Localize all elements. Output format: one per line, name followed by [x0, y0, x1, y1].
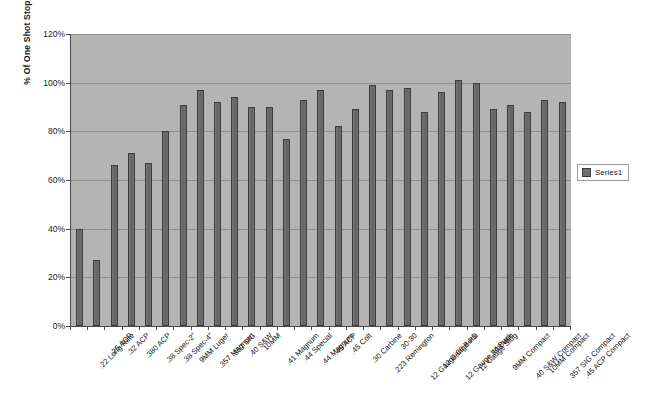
bar-cell — [467, 34, 484, 326]
y-axis-tick-mark — [66, 277, 70, 278]
x-axis-tick-mark — [501, 326, 502, 330]
bar — [507, 105, 514, 326]
x-axis-tick-mark — [363, 326, 364, 330]
bar — [335, 126, 342, 326]
x-axis-tick-mark — [449, 326, 450, 330]
bar-cell — [71, 34, 88, 326]
x-axis-tick-mark — [536, 326, 537, 330]
bar-cell — [123, 34, 140, 326]
x-axis-tick-mark — [484, 326, 485, 330]
x-axis-tick-mark — [225, 326, 226, 330]
bar — [93, 260, 100, 326]
bar-cell — [433, 34, 450, 326]
y-axis-tick-label: 40% — [0, 224, 65, 234]
bar-cell — [502, 34, 519, 326]
bar-cell — [554, 34, 571, 326]
bar-cell — [105, 34, 122, 326]
y-axis-tick-label: 20% — [0, 272, 65, 282]
chart-screenshot: % Of One Shot Stops 0%20%40%60%80%100%12… — [0, 0, 654, 417]
x-axis-tick-mark — [156, 326, 157, 330]
bar — [524, 112, 531, 326]
y-axis-tick-label: 0% — [0, 321, 65, 331]
bar — [352, 109, 359, 326]
bar — [231, 97, 238, 326]
bar — [214, 102, 221, 326]
y-axis-tick-mark — [66, 229, 70, 230]
x-axis-tick-mark — [260, 326, 261, 330]
bar — [111, 165, 118, 326]
x-axis-tick-mark — [398, 326, 399, 330]
y-axis-tick-label: 100% — [0, 78, 65, 88]
bar — [455, 80, 462, 326]
legend-label-series1: Series1 — [595, 168, 622, 177]
y-axis-title: % Of One Shot Stops — [22, 0, 32, 110]
x-axis-tick-mark — [380, 326, 381, 330]
plot-area — [70, 34, 571, 327]
bar — [197, 90, 204, 326]
bar-cell — [364, 34, 381, 326]
bar-cell — [381, 34, 398, 326]
x-axis-tick-mark — [139, 326, 140, 330]
bar-cell — [157, 34, 174, 326]
x-axis-tick-mark — [467, 326, 468, 330]
x-axis-tick-mark — [173, 326, 174, 330]
bar — [300, 100, 307, 326]
bar — [128, 153, 135, 326]
y-axis-tick-label: 80% — [0, 126, 65, 136]
bar-cell — [347, 34, 364, 326]
bar-cell — [278, 34, 295, 326]
bar — [369, 85, 376, 326]
x-axis-tick-mark — [570, 326, 571, 330]
x-axis-tick-mark — [70, 326, 71, 330]
bar — [248, 107, 255, 326]
x-axis-tick-mark — [277, 326, 278, 330]
bar — [145, 163, 152, 326]
bar-series — [71, 34, 571, 326]
x-axis-tick-mark — [104, 326, 105, 330]
y-axis-tick-mark — [66, 131, 70, 132]
bar — [180, 105, 187, 326]
bar-cell — [261, 34, 278, 326]
bar — [473, 83, 480, 326]
bar — [317, 90, 324, 326]
bar — [421, 112, 428, 326]
x-axis-tick-mark — [415, 326, 416, 330]
y-axis-tick-mark — [66, 180, 70, 181]
x-axis-tick-mark — [553, 326, 554, 330]
bar-cell — [330, 34, 347, 326]
x-axis-tick-mark — [242, 326, 243, 330]
x-axis-tick-mark — [87, 326, 88, 330]
x-axis-tick-mark — [518, 326, 519, 330]
bar — [490, 109, 497, 326]
x-axis-tick-mark — [191, 326, 192, 330]
bar — [541, 100, 548, 326]
bar-cell — [450, 34, 467, 326]
bar-cell — [88, 34, 105, 326]
bar — [266, 107, 273, 326]
x-axis-tick-mark — [208, 326, 209, 330]
x-axis-tick-labels: .22 Long Rifle.25 ACP.32 ACP.380 ACP.38 … — [70, 331, 570, 417]
bar-cell — [485, 34, 502, 326]
bar-cell — [519, 34, 536, 326]
bar-cell — [312, 34, 329, 326]
x-axis-tick-mark — [311, 326, 312, 330]
bar — [162, 131, 169, 326]
bar — [404, 88, 411, 326]
bar-cell — [226, 34, 243, 326]
bar-cell — [174, 34, 191, 326]
x-axis-tick-mark — [432, 326, 433, 330]
bar — [283, 139, 290, 326]
bar-cell — [536, 34, 553, 326]
bar-cell — [209, 34, 226, 326]
x-axis-tick-mark — [346, 326, 347, 330]
x-axis-tick-mark — [329, 326, 330, 330]
legend-swatch-series1 — [582, 168, 591, 177]
y-axis-tick-label: 60% — [0, 175, 65, 185]
bar — [438, 92, 445, 326]
y-axis-tick-label: 120% — [0, 29, 65, 39]
bar-cell — [398, 34, 415, 326]
bar — [559, 102, 566, 326]
chart-legend: Series1 — [577, 164, 629, 181]
bar-cell — [243, 34, 260, 326]
y-axis-tick-mark — [66, 34, 70, 35]
